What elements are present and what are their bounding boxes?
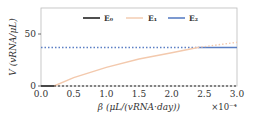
x-axis-label: β (μL/(vRNA·day))	[97, 102, 181, 112]
xtick-2: 1.0	[99, 89, 114, 99]
xtick-1: 0.5	[67, 89, 82, 99]
xtick-6: 3.0	[230, 89, 245, 99]
xtick-4: 2.0	[165, 89, 180, 99]
y-axis-label: V (vRNA/μL)	[8, 18, 18, 76]
xtick-0: 0.0	[34, 89, 49, 99]
legend-e1-label: E₁	[148, 14, 157, 23]
legend-e2-label: E₂	[189, 14, 198, 23]
x-scale-label: ×10⁻⁴	[211, 102, 237, 112]
xtick-3: 1.5	[132, 89, 147, 99]
chart: 0 50 0.0 0.5 1.0 1.5 2.0 2.5 3.0 ×10⁻⁴ β…	[0, 0, 253, 120]
legend-e0-label: E₀	[104, 14, 114, 23]
xtick-5: 2.5	[197, 89, 212, 99]
ytick-50: 50	[25, 29, 37, 39]
